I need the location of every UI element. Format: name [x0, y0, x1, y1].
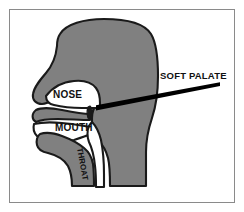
vocal-tract-illustration	[0, 0, 244, 212]
label-mouth: MOUTH	[55, 122, 93, 133]
diagram-figure: NOSE MOUTH THROAT SOFT PALATE	[0, 0, 244, 212]
upper-lip-wedge	[33, 108, 90, 122]
label-nose: NOSE	[53, 89, 82, 100]
soft-palate-flap	[87, 106, 92, 119]
label-soft-palate: SOFT PALATE	[160, 70, 227, 81]
